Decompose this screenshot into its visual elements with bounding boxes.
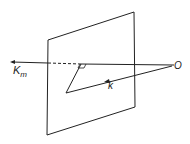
plane: [47, 12, 135, 135]
label-origin: O: [174, 60, 182, 71]
vector-k-line: [66, 66, 172, 93]
axis-line-km: [12, 62, 48, 63]
diagram-canvas: [0, 0, 190, 144]
axis-line-dashed: [48, 63, 81, 64]
label-km-sub: m: [20, 70, 27, 79]
label-k: k: [108, 80, 113, 91]
perpendicular-line: [66, 64, 81, 93]
axis-line-front: [81, 64, 174, 65]
label-km: Km: [13, 64, 27, 79]
